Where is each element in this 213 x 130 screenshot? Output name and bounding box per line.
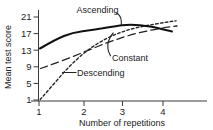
y-axis-title: Mean test score [3,25,13,89]
series-line-ascending [40,25,172,49]
y-axis-ticks [34,17,39,100]
series-label-ascending: Ascending [77,5,119,15]
y-ticklabel-5: 5 [26,78,31,89]
y-ticklabel-13: 13 [21,45,32,56]
x-axis-title: Number of repetitions [79,118,166,128]
y-ticklabel-9: 9 [26,61,31,72]
series-label-constant: Constant [112,53,149,63]
x-axis-ticklabels: 1 2 3 4 [36,106,165,117]
y-ticklabel-17: 17 [21,28,32,39]
leader-line-ascending [117,13,122,25]
series-line-descending [40,21,176,100]
y-ticklabel-1: 1 [26,94,31,105]
series-line-constant [41,26,178,69]
x-axis-ticks [39,101,163,106]
x-ticklabel-2: 2 [81,106,86,117]
y-axis-ticklabels: 21 17 13 9 5 1 [21,11,32,105]
x-ticklabel-4: 4 [160,106,165,117]
x-ticklabel-3: 3 [120,106,125,117]
chart-figure: 21 17 13 9 5 1 1 2 3 4 Number of repetit… [0,0,213,130]
series-label-descending: Descending [77,68,125,78]
line-chart: 21 17 13 9 5 1 1 2 3 4 Number of repetit… [0,0,213,130]
x-ticklabel-1: 1 [36,106,41,117]
y-ticklabel-21: 21 [21,11,32,22]
